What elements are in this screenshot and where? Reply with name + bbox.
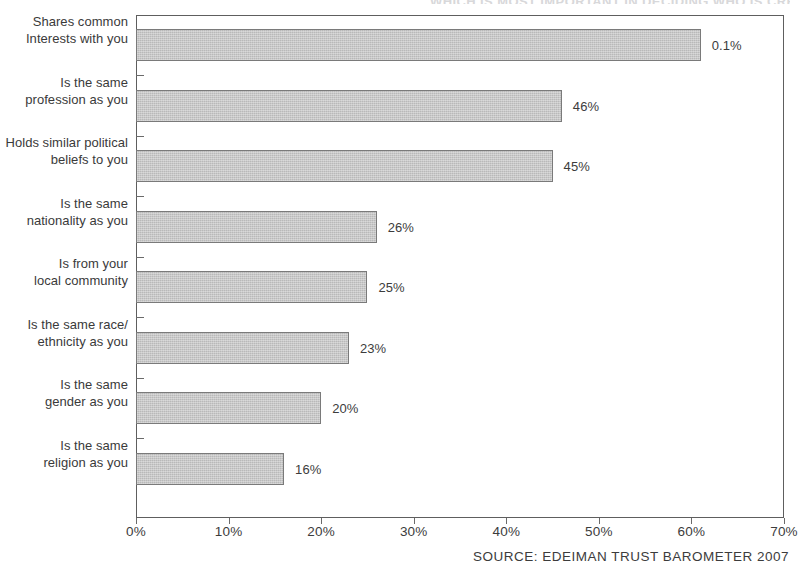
- axis-minor-tick: [136, 438, 144, 439]
- axis-minor-tick: [136, 317, 144, 318]
- category-label: Is the same religion as you: [0, 437, 128, 471]
- x-axis-tick-label: 0%: [126, 524, 146, 539]
- category-label: Is the same race/ ethnicity as you: [0, 316, 128, 350]
- bar-value-label: 16%: [295, 462, 321, 477]
- bar-row: [136, 271, 784, 303]
- category-label: Is the same gender as you: [0, 376, 128, 410]
- bar: [136, 271, 367, 303]
- bar-row: [136, 90, 784, 122]
- bar-row: [136, 332, 784, 364]
- x-axis-tick-label: 40%: [492, 524, 520, 539]
- bar-value-label: 23%: [360, 341, 386, 356]
- bar-value-label: 20%: [332, 401, 358, 416]
- category-label: Shares common Interests with you: [0, 13, 128, 47]
- x-axis-tick-label: 20%: [307, 524, 335, 539]
- bar-row: [136, 29, 784, 61]
- bar-value-label: 0.1%: [712, 38, 742, 53]
- axis-minor-tick: [136, 257, 144, 258]
- axis-minor-tick: [136, 136, 144, 137]
- bar: [136, 29, 701, 61]
- x-axis-tick-label: 60%: [678, 524, 706, 539]
- bar-row: [136, 150, 784, 182]
- bar: [136, 211, 377, 243]
- category-label: Is from your local community: [0, 255, 128, 289]
- bar-value-label: 46%: [573, 99, 599, 114]
- bar: [136, 453, 284, 485]
- category-label: Is the same nationality as you: [0, 195, 128, 229]
- bar-value-label: 26%: [388, 220, 414, 235]
- bar: [136, 332, 349, 364]
- bar: [136, 90, 562, 122]
- chart-title: WHICH IS MOST IMPORTANT IN DECIDING WHO …: [430, 0, 790, 4]
- category-label: Is the same profession as you: [0, 74, 128, 108]
- bar: [136, 392, 321, 424]
- category-label: Holds similar political beliefs to you: [0, 134, 128, 168]
- bar-row: [136, 453, 784, 485]
- bar-value-label: 45%: [564, 159, 590, 174]
- bar-row: [136, 392, 784, 424]
- x-axis-tick-label: 10%: [215, 524, 243, 539]
- axis-minor-tick: [136, 75, 144, 76]
- axis-minor-tick: [136, 196, 144, 197]
- bar: [136, 150, 553, 182]
- x-axis-tick-label: 30%: [400, 524, 428, 539]
- bar-value-label: 25%: [378, 280, 404, 295]
- bar-row: [136, 211, 784, 243]
- x-axis-tick-label: 70%: [770, 524, 798, 539]
- source-note: SOURCE: EDEIMAN TRUST BAROMETER 2007: [473, 549, 789, 564]
- axis-minor-tick: [136, 378, 144, 379]
- x-axis-tick-label: 50%: [585, 524, 613, 539]
